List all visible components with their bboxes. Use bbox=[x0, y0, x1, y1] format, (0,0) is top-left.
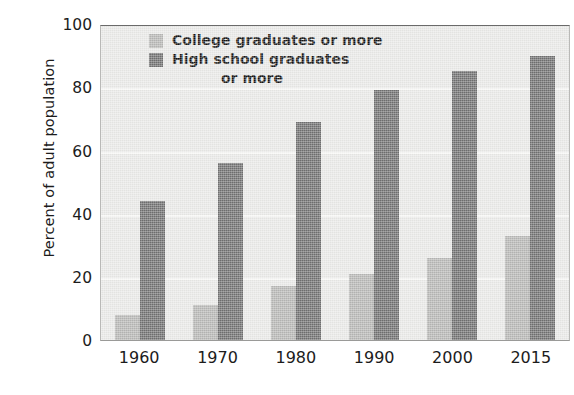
y-tick-40: 40 bbox=[48, 206, 92, 224]
bar-group-2015 bbox=[491, 26, 569, 340]
bar-highschool-1960 bbox=[140, 201, 165, 340]
x-tick-2015: 2015 bbox=[492, 348, 570, 378]
bar-highschool-2000 bbox=[452, 71, 477, 340]
y-axis-tick-labels: 100 80 60 40 20 0 bbox=[46, 0, 92, 395]
bar-highschool-1980 bbox=[296, 122, 321, 340]
bar-highschool-2015 bbox=[530, 56, 555, 340]
legend-label-highschool: High school graduates bbox=[172, 51, 349, 67]
legend-swatch-highschool-icon bbox=[149, 53, 163, 67]
bar-college-1990 bbox=[349, 274, 374, 340]
legend-item-highschool: High school graduates bbox=[149, 51, 383, 67]
x-tick-1980: 1980 bbox=[257, 348, 335, 378]
bar-chart: Percent of adult population 100 80 60 40… bbox=[0, 0, 574, 395]
legend-item-college: College graduates or more bbox=[149, 32, 383, 48]
y-tick-60: 60 bbox=[48, 143, 92, 161]
bar-college-1960 bbox=[115, 315, 140, 340]
y-tick-0: 0 bbox=[48, 332, 92, 350]
bar-college-2015 bbox=[505, 236, 530, 340]
x-tick-1960: 1960 bbox=[100, 348, 178, 378]
legend-label-highschool-cont: or more bbox=[221, 70, 383, 86]
x-tick-1990: 1990 bbox=[335, 348, 413, 378]
y-tick-20: 20 bbox=[48, 269, 92, 287]
y-tick-100: 100 bbox=[48, 16, 92, 34]
y-tick-80: 80 bbox=[48, 79, 92, 97]
legend-label-college: College graduates or more bbox=[172, 32, 383, 48]
bar-highschool-1990 bbox=[374, 90, 399, 340]
x-tick-2000: 2000 bbox=[413, 348, 491, 378]
bar-highschool-1970 bbox=[218, 163, 243, 340]
bar-college-2000 bbox=[427, 258, 452, 340]
plot-area: College graduates or more High school gr… bbox=[100, 25, 570, 341]
legend-swatch-college-icon bbox=[149, 34, 163, 48]
legend: College graduates or more High school gr… bbox=[149, 32, 383, 86]
bar-group-2000 bbox=[413, 26, 491, 340]
x-tick-1970: 1970 bbox=[178, 348, 256, 378]
x-axis-tick-labels: 1960 1970 1980 1990 2000 2015 bbox=[100, 348, 570, 378]
bar-college-1980 bbox=[271, 286, 296, 340]
bar-college-1970 bbox=[193, 305, 218, 340]
